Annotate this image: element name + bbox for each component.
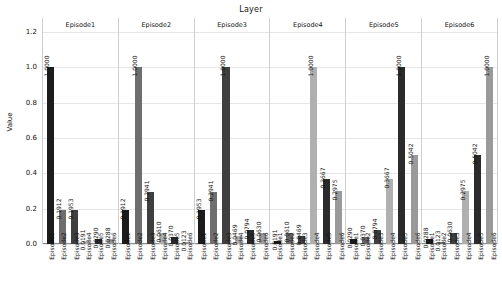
bar-slot: 0.0370 [359,32,371,244]
x-axis-tick-label: Episode4 [466,232,472,259]
panel-header-label: Episode4 [270,18,345,33]
x-tick-slot: Episode1 [423,244,435,305]
x-tick-slot: Episode1 [43,244,55,305]
x-tick-slot: Episode5 [244,244,256,305]
panel-plot-body: 0.01910.06100.04691.00000.36670.2975 [270,32,345,244]
x-tick-slot: Episode3 [220,244,232,305]
bar-slot: 1.0000 [220,32,232,244]
x-tick-slot: Episode3 [68,244,80,305]
x-tick-slot: Episode6 [485,244,497,305]
panel-plot-body: 0.02900.03700.07940.36671.00000.5042 [346,32,421,244]
bar-slot: 0.0630 [256,32,268,244]
y-axis-tick-label: 0.0 [26,240,37,248]
x-tick-slot: Episode6 [105,244,117,305]
bar-value-label: 0.1953 [196,198,202,219]
x-axis-tick-label: Episode5 [98,232,104,259]
x-axis-tick-label: Episode6 [339,232,345,259]
x-axis-tick-label: Episode4 [238,232,244,259]
panel-x-ticks: Episode1Episode2Episode3Episode4Episode5… [118,244,194,305]
y-axis-tick-label: 0.4 [26,169,37,177]
x-tick-slot: Episode2 [131,244,143,305]
chart-title: Layer [0,5,502,14]
x-axis-tick-label: Episode2 [441,232,447,259]
bar[interactable]: 0.5042 [411,155,418,244]
x-axis-tick-label: Episode2 [61,232,67,259]
bar-value-label: 1.0000 [220,56,226,77]
x-tick-slot: Episode1 [271,244,283,305]
bar-value-label: 0.2941 [208,181,214,202]
bar-value-label: 0.5042 [472,143,478,164]
bar[interactable]: 1.0000 [310,67,317,244]
panel-x-ticks: Episode1Episode2Episode3Episode4Episode5… [346,244,422,305]
x-tick-slot: Episode4 [80,244,92,305]
bar-slot: 0.2975 [460,32,472,244]
plot-area: Episode11.00000.19120.19530.01910.02900.… [42,18,498,244]
panel-plot-body: 0.02880.01230.06300.29750.50421.0000 [422,32,497,244]
x-axis-tick-label: Episode1 [277,232,283,259]
bar-slot: 0.0123 [181,32,193,244]
bar[interactable]: 1.0000 [222,67,229,244]
x-axis-tick-label: Episode6 [187,232,193,259]
bar-slot: 1.0000 [484,32,496,244]
x-tick-slot: Episode3 [448,244,460,305]
x-axis-tick-label: Episode2 [213,232,219,259]
x-axis-tick-label: Episode5 [402,232,408,259]
bar-slot: 0.0794 [244,32,256,244]
bar-group: 0.01910.06100.04691.00000.36670.2975 [270,32,345,244]
bar-value-label: 0.5042 [408,143,414,164]
x-axis-tick-label: Episode2 [289,232,295,259]
panel-x-ticks: Episode1Episode2Episode3Episode4Episode5… [422,244,498,305]
x-axis-tick-label: Episode5 [250,232,256,259]
bar-slot: 0.0191 [80,32,92,244]
x-tick-slot: Episode2 [435,244,447,305]
x-axis-tick-label: Episode5 [478,232,484,259]
chart-panel: Episode30.19530.29411.00000.04690.07940.… [194,18,270,244]
bar[interactable]: 0.5042 [474,155,481,244]
x-tick-slot: Episode4 [156,244,168,305]
bar-value-label: 0.3667 [384,168,390,189]
bar-value-label: 1.0000 [396,56,402,77]
x-axis-tick-label: Episode1 [125,232,131,259]
panel-header-label: Episode2 [119,18,194,33]
panel-header-label: Episode5 [346,18,421,33]
bar[interactable]: 1.0000 [486,67,493,244]
x-axis-tick-label: Episode3 [74,232,80,259]
x-axis-tick-label: Episode3 [226,232,232,259]
x-tick-slot: Episode1 [119,244,131,305]
bar-group: 0.19530.29411.00000.04690.07940.0630 [195,32,270,244]
bar-slot: 0.0288 [105,32,117,244]
bar[interactable]: 1.0000 [135,67,142,244]
x-tick-slot: Episode5 [472,244,484,305]
bar[interactable]: 1.0000 [47,67,54,244]
bar-value-label: 0.2941 [144,181,150,202]
x-axis-tick-label: Episode2 [365,232,371,259]
bar-slot: 0.3667 [320,32,332,244]
y-axis-tick-label: 1.0 [26,63,37,71]
bar-value-label: 0.1912 [56,199,62,220]
x-tick-slot: Episode6 [409,244,421,305]
bar-value-label: 0.1912 [120,199,126,220]
bar-value-label: 0.2975 [460,180,466,201]
bar-slot: 0.0370 [168,32,180,244]
bar-slot: 0.1953 [196,32,208,244]
x-tick-slot: Episode3 [296,244,308,305]
bar-group: 1.00000.19120.19530.01910.02900.0288 [43,32,118,244]
x-tick-slot: Episode2 [55,244,67,305]
bar-slot: 0.5042 [408,32,420,244]
chart-panel: Episode40.01910.06100.04691.00000.36670.… [269,18,345,244]
bar-slot: 0.0630 [447,32,459,244]
panel-x-ticks: Episode1Episode2Episode3Episode4Episode5… [42,244,118,305]
chart-panel: Episode50.02900.03700.07940.36671.00000.… [345,18,421,244]
bar-slot: 0.0288 [423,32,435,244]
x-tick-slot: Episode5 [396,244,408,305]
bar-slot: 0.1953 [68,32,80,244]
panel-x-ticks: Episode1Episode2Episode3Episode4Episode5… [194,244,270,305]
bar-group: 0.02880.01230.06300.29750.50421.0000 [422,32,497,244]
bar[interactable]: 1.0000 [398,67,405,244]
x-tick-slot: Episode2 [283,244,295,305]
y-axis-tick-label: 1.2 [26,28,37,36]
x-tick-slot: Episode4 [232,244,244,305]
bar-group: 0.02900.03700.07940.36671.00000.5042 [346,32,421,244]
y-axis-tick-label: 0.6 [26,134,37,142]
x-axis-tick-label: Episode4 [86,232,92,259]
